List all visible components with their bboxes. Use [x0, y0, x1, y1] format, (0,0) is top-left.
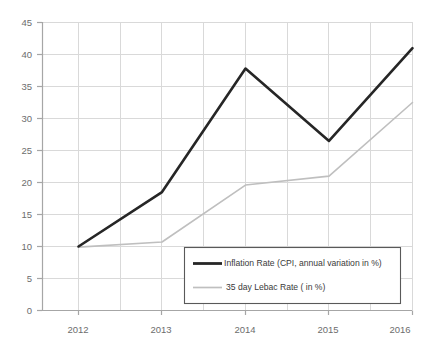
y-tick-label: 15 [21, 209, 32, 220]
legend-box [185, 248, 401, 304]
y-tick-label: 0 [27, 305, 32, 316]
y-tick-label: 25 [21, 145, 32, 156]
chart-canvas: 45 40 35 30 25 20 15 10 5 0 2012 2013 20… [0, 0, 428, 360]
y-tick-label: 45 [21, 17, 32, 28]
y-tick-label: 20 [21, 177, 32, 188]
x-tick-label-2016: 2016 [389, 324, 410, 335]
x-tick-label-2012: 2012 [67, 324, 88, 335]
x-tick-label-2015: 2015 [317, 324, 338, 335]
legend: Inflation Rate (CPI, annual variation in… [185, 248, 401, 304]
y-tick-label: 35 [21, 81, 32, 92]
legend-label-lebac-rate: 35 day Lebac Rate ( in %) [226, 282, 325, 292]
x-tick-label-2014: 2014 [234, 324, 255, 335]
y-tick-label: 40 [21, 49, 32, 60]
y-tick-label: 5 [27, 273, 32, 284]
legend-label-inflation-rate: Inflation Rate (CPI, annual variation in… [224, 258, 382, 268]
line-chart: 45 40 35 30 25 20 15 10 5 0 2012 2013 20… [0, 0, 428, 360]
y-tick-label: 30 [21, 113, 32, 124]
y-tick-label: 10 [21, 241, 32, 252]
x-tick-label-2013: 2013 [150, 324, 171, 335]
